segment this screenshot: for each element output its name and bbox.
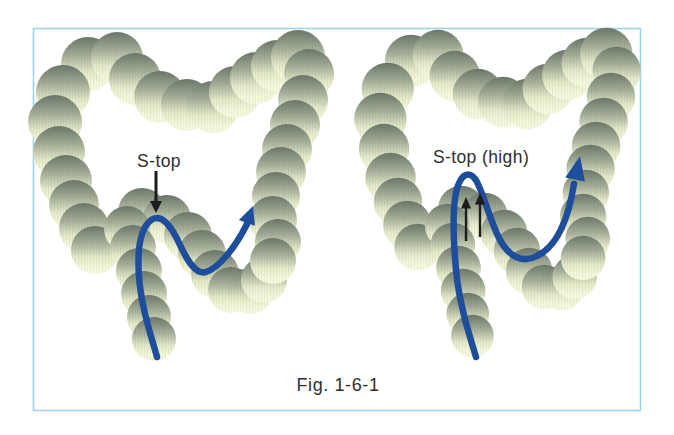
figure-caption: Fig. 1-6-1 (296, 375, 379, 395)
colon-ball-texture (250, 238, 296, 284)
label-s-top: S-top (137, 151, 181, 171)
figure-page: S-top S-top (high) Fig. 1-6-1 (0, 0, 674, 435)
colon-ball-texture (561, 236, 606, 281)
label-s-top-high: S-top (high) (433, 147, 529, 167)
colon-diagram-figure: S-top S-top (high) Fig. 1-6-1 (0, 0, 674, 435)
